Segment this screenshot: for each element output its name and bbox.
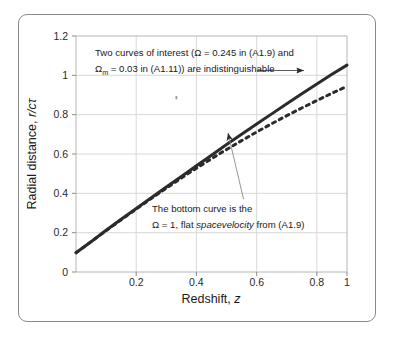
x-tick-labels: 0.2 0.4 0.6 0.8 1 [129,276,350,288]
bottom-annotation-italic-term: spacevelocity [196,219,255,230]
y-tick-label-2: 0.4 [53,187,68,199]
x-tick-label-4: 1 [344,276,350,288]
x-tick-label-1: 0.4 [189,276,204,288]
chart-canvas: 0.2 0.4 0.6 0.8 1 0 0.2 0.4 0.6 0.8 1 1.… [0,0,394,339]
bottom-annotation-line2-rest: from (A1.9) [254,219,305,230]
top-annotation-line1: Two curves of interest (Ω = 0.245 in (A1… [95,47,294,58]
x-axis-title: Redshift, z [181,292,241,306]
figure-root: 0.2 0.4 0.6 0.8 1 0 0.2 0.4 0.6 0.8 1 1.… [0,0,394,339]
x-tick-label-3: 0.8 [310,276,325,288]
bottom-annotation-line1: The bottom curve is the [152,203,252,214]
stray-speck-artifact [176,96,178,99]
x-tick-label-2: 0.6 [249,276,264,288]
x-axis-title-symbol: z [233,292,241,306]
y-axis-title: Radial distance, r/cτ [25,97,39,209]
y-tick-label-3: 0.6 [53,148,68,160]
y-axis-title-prefix: Radial distance, [25,117,39,209]
bottom-annotation-line2: Ω = 1, flat spacevelocity from (A1.9) [152,219,305,230]
y-axis-title-symbol: r/cτ [25,97,39,117]
y-tick-labels: 0 0.2 0.4 0.6 0.8 1 1.2 [53,30,68,278]
y-tick-label-6: 1.2 [53,30,68,42]
top-annotation-omega: Ω [95,63,102,74]
x-tick-label-0: 0.2 [129,276,144,288]
y-tick-label-4: 0.8 [53,108,68,120]
x-axis-title-prefix: Redshift, [181,292,234,306]
bottom-annotation-omega: Ω = 1, flat [152,219,196,230]
y-tick-label-5: 1 [62,69,68,81]
top-annotation-line2-rest: = 0.03 in (A1.11)) are indistinguishable [108,63,274,74]
y-tick-label-1: 0.2 [53,226,68,238]
y-tick-label-0: 0 [62,266,68,278]
